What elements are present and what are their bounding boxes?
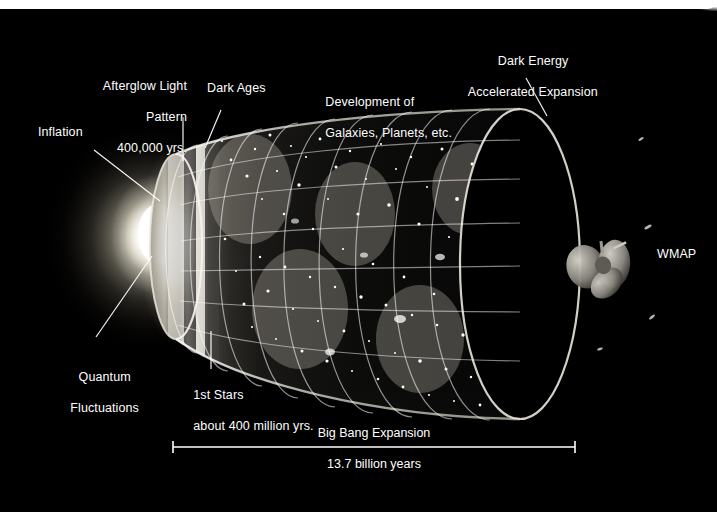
- label-development-line-1: Development of: [325, 95, 414, 109]
- label-dark-ages: Dark Ages: [207, 81, 266, 97]
- label-afterglow-light-pattern: Afterglow Light Pattern 400,000 yrs.: [60, 63, 187, 172]
- label-afterglow-line-3: 400,000 yrs.: [117, 141, 187, 155]
- label-afterglow-line-2: Pattern: [146, 110, 187, 124]
- label-dark-energy-line-2: Accelerated Expansion: [468, 85, 598, 99]
- label-development-of-galaxies: Development of Galaxies, Planets, etc.: [311, 79, 452, 157]
- label-first-stars-line-1: 1st Stars: [193, 388, 243, 402]
- label-quantum-fluctuations: Quantum Fluctuations: [15, 354, 180, 432]
- label-wmap: WMAP: [657, 247, 696, 263]
- label-afterglow-line-1: Afterglow Light: [103, 79, 187, 93]
- debris-specks: [597, 136, 656, 351]
- label-development-line-2: Galaxies, Planets, etc.: [325, 126, 452, 140]
- page-top-edge: [0, 0, 717, 9]
- scale-bar-caption: Big Bang Expansion: [173, 426, 575, 441]
- label-quantum-line-2: Fluctuations: [70, 401, 139, 415]
- wmap-satellite-icon: [561, 230, 648, 312]
- page-corner-highlight: [677, 0, 717, 16]
- timeline-of-the-universe-figure: Inflation Afterglow Light Pattern 400,00…: [0, 0, 717, 512]
- scale-bar-value: 13.7 billion years: [173, 457, 575, 472]
- label-dark-energy: Dark Energy Accelerated Expansion: [438, 38, 614, 116]
- label-quantum-line-1: Quantum: [79, 370, 131, 384]
- label-dark-energy-line-1: Dark Energy: [498, 54, 569, 68]
